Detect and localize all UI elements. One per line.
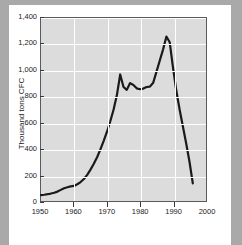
y-axis-tick-mark bbox=[40, 176, 44, 177]
gridline-vertical bbox=[108, 18, 109, 201]
gridline-vertical bbox=[74, 18, 75, 201]
y-axis-tick-mark bbox=[40, 96, 44, 97]
x-axis-tick-mark bbox=[107, 202, 108, 207]
y-axis-tick-label: 1,200 bbox=[11, 39, 37, 47]
page-edge-strip-left bbox=[0, 0, 9, 245]
gridline-horizontal bbox=[41, 124, 206, 125]
y-axis-tick-label: 1,000 bbox=[11, 66, 37, 74]
line-series-svg bbox=[41, 18, 206, 201]
x-axis-tick-mark bbox=[174, 202, 175, 207]
cfc-production-line bbox=[41, 37, 193, 196]
figure-page: Thousand tons CFC 02004006008001,0001,20… bbox=[0, 0, 242, 245]
y-axis-tick-mark bbox=[40, 17, 44, 18]
y-axis-tick-label: 200 bbox=[11, 172, 37, 180]
y-axis-tick-mark bbox=[40, 70, 44, 71]
y-axis-tick-label: 600 bbox=[11, 119, 37, 127]
y-axis-tick-mark bbox=[40, 43, 44, 44]
y-axis-tick-label: 0 bbox=[11, 198, 37, 206]
gridline-horizontal bbox=[41, 177, 206, 178]
chart-figure: Thousand tons CFC 02004006008001,0001,20… bbox=[9, 5, 231, 245]
y-axis-tick-mark bbox=[40, 202, 44, 203]
y-axis-tick-labels: 02004006008001,0001,2001,400 bbox=[9, 17, 37, 202]
plot-area bbox=[41, 18, 206, 201]
y-axis-tick-label: 800 bbox=[11, 92, 37, 100]
y-axis-tick-mark bbox=[40, 123, 44, 124]
x-axis-tick-labels: 195019601970198019902000 bbox=[40, 208, 207, 222]
y-axis-tick-label: 1,400 bbox=[11, 13, 37, 21]
gridline-horizontal bbox=[41, 150, 206, 151]
gridline-horizontal bbox=[41, 97, 206, 98]
x-axis-tick-mark bbox=[140, 202, 141, 207]
gridline-horizontal bbox=[41, 71, 206, 72]
page-edge-strip-right bbox=[231, 0, 242, 245]
y-axis-tick-label: 400 bbox=[11, 145, 37, 153]
gridline-horizontal bbox=[41, 44, 206, 45]
x-axis-tick-label: 2000 bbox=[187, 208, 227, 216]
plot-frame bbox=[40, 17, 207, 202]
x-axis-tick-mark bbox=[73, 202, 74, 207]
y-axis-tick-mark bbox=[40, 149, 44, 150]
gridline-vertical bbox=[141, 18, 142, 201]
gridline-vertical bbox=[175, 18, 176, 201]
gridline-horizontal bbox=[41, 18, 206, 19]
